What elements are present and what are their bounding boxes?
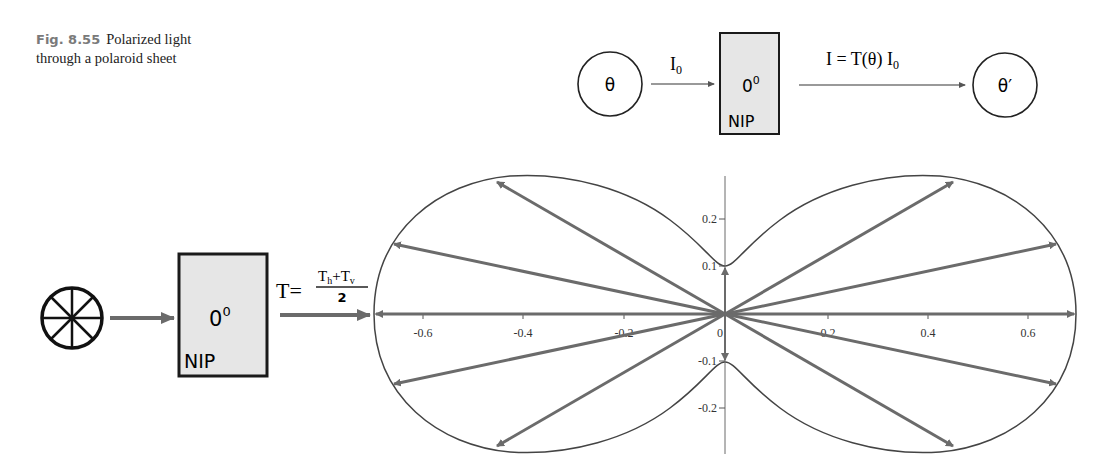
input-intensity-label: I0 — [670, 54, 682, 77]
bottom-polarizer-type: NIP — [184, 350, 215, 372]
svg-text:0.1: 0.1 — [702, 259, 717, 273]
svg-text:0.2: 0.2 — [702, 212, 717, 226]
svg-text:-0.1: -0.1 — [698, 354, 717, 368]
svg-text:0: 0 — [717, 326, 723, 340]
vector-202deg — [394, 314, 725, 384]
svg-text:-0.4: -0.4 — [514, 326, 533, 340]
unpolarized-light-icon — [42, 288, 102, 348]
svg-text:0.4: 0.4 — [921, 326, 936, 340]
polar-plot: 0.2 0.1 -0.1 -0.2 -0.6 -0.4 -0.2 0 0.2 — [374, 175, 1076, 454]
svg-text:0.6: 0.6 — [1021, 326, 1036, 340]
formula-numerator: Th+Tv — [318, 268, 355, 286]
input-state-label: θ — [605, 75, 615, 95]
top-diagram: θ I0 00 NIP I = T(θ) I0 θ′ — [578, 33, 1037, 134]
formula-denominator: 2 — [337, 290, 346, 305]
svg-text:-0.6: -0.6 — [414, 326, 433, 340]
svg-text:-0.2: -0.2 — [698, 401, 717, 415]
output-state-label: θ′ — [998, 76, 1012, 96]
vector-135deg — [497, 182, 725, 314]
transmission-formula: T= Th+Tv 2 — [276, 268, 368, 305]
formula-lhs: T= — [276, 278, 302, 303]
vector-22deg — [725, 244, 1056, 314]
bottom-diagram: 00 NIP T= Th+Tv 2 — [42, 175, 1076, 454]
vector-45deg — [725, 182, 953, 314]
vector-315deg — [725, 314, 953, 446]
output-relation-label: I = T(θ) I0 — [826, 49, 899, 72]
top-polarizer-type: NIP — [728, 112, 755, 131]
vector-337deg — [725, 314, 1056, 384]
vector-157deg — [394, 244, 725, 314]
diagram-canvas: θ I0 00 NIP I = T(θ) I0 θ′ 00 — [0, 0, 1114, 474]
